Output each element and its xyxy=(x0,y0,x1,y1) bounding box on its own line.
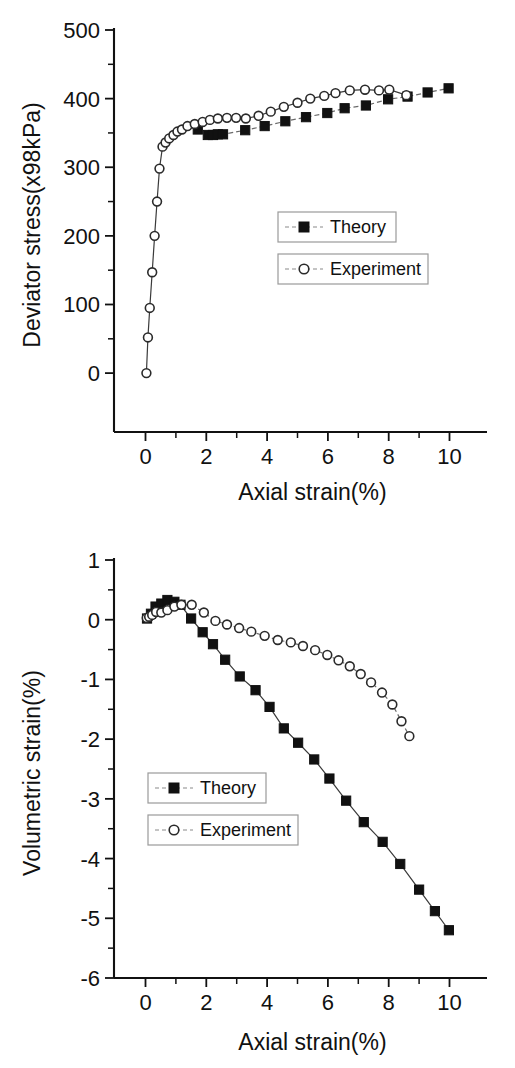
series-line-theory xyxy=(147,600,449,930)
data-point xyxy=(345,662,354,671)
y-tick-label: 200 xyxy=(63,224,100,249)
data-point xyxy=(340,104,349,113)
legend-item-theory[interactable]: Theory xyxy=(148,773,266,803)
legend-label: Experiment xyxy=(330,259,421,279)
data-point xyxy=(273,636,282,645)
data-point xyxy=(187,600,196,609)
legend-label: Theory xyxy=(200,778,256,798)
data-point xyxy=(430,907,439,916)
data-point xyxy=(444,84,453,93)
data-point xyxy=(260,631,269,640)
data-point xyxy=(423,88,432,97)
data-point xyxy=(325,774,334,783)
data-point xyxy=(311,646,320,655)
x-tick-label: 2 xyxy=(200,990,212,1015)
y-tick-label: 0 xyxy=(88,608,100,633)
data-point xyxy=(251,686,260,695)
legend-marker-filled-square-icon xyxy=(169,783,179,793)
legend-label: Theory xyxy=(330,217,386,237)
data-point xyxy=(367,678,376,687)
axes-group: -6-5-4-3-2-1010246810 xyxy=(80,548,487,1015)
legend-label: Experiment xyxy=(200,820,291,840)
data-point xyxy=(396,859,405,868)
data-point xyxy=(155,164,164,173)
data-point xyxy=(361,101,370,110)
y-tick-label: -3 xyxy=(80,787,100,812)
legend-marker-open-circle-icon xyxy=(169,825,179,835)
data-point xyxy=(293,98,302,107)
y-axis-title: Volumetric strain(%) xyxy=(19,670,45,876)
data-point xyxy=(279,724,288,733)
y-tick-label: 100 xyxy=(63,292,100,317)
data-point xyxy=(402,91,411,100)
data-point xyxy=(247,627,256,636)
legend-item-experiment[interactable]: Experiment xyxy=(148,815,298,845)
data-point xyxy=(359,818,368,827)
data-point xyxy=(150,231,159,240)
x-tick-label: 0 xyxy=(139,990,151,1015)
data-point xyxy=(266,107,275,116)
legend: TheoryExperiment xyxy=(278,212,428,284)
data-point xyxy=(235,672,244,681)
data-point xyxy=(153,197,162,206)
data-point xyxy=(331,89,340,98)
data-point xyxy=(294,738,303,747)
data-point xyxy=(208,640,217,649)
data-point xyxy=(241,114,250,123)
data-point xyxy=(286,638,295,647)
data-point xyxy=(361,85,370,94)
legend-item-theory[interactable]: Theory xyxy=(278,212,396,242)
data-point xyxy=(142,369,151,378)
data-point xyxy=(405,732,414,741)
volumetric-strain-plot: -6-5-4-3-2-1010246810Axial strain(%)Volu… xyxy=(0,515,515,1068)
legend-marker-open-circle-icon xyxy=(299,264,309,274)
x-tick-label: 8 xyxy=(383,444,395,469)
data-point xyxy=(187,614,196,623)
data-point xyxy=(299,642,308,651)
legend: TheoryExperiment xyxy=(148,773,298,845)
data-point xyxy=(232,113,241,122)
series-line-experiment xyxy=(147,605,410,736)
data-point xyxy=(198,628,207,637)
y-tick-label: -2 xyxy=(80,727,100,752)
x-tick-label: 10 xyxy=(437,990,461,1015)
data-point xyxy=(378,837,387,846)
y-tick-label: -6 xyxy=(80,966,100,991)
data-point xyxy=(301,113,310,122)
data-point xyxy=(213,114,222,123)
y-tick-label: 300 xyxy=(63,155,100,180)
y-tick-label: 500 xyxy=(63,18,100,43)
data-point xyxy=(375,86,384,95)
data-point xyxy=(218,130,227,139)
data-point xyxy=(223,620,232,629)
data-point xyxy=(323,108,332,117)
data-point xyxy=(320,91,329,100)
legend-marker-filled-square-icon xyxy=(299,222,309,232)
data-point xyxy=(383,95,392,104)
volumetric-strain-figure: -6-5-4-3-2-1010246810Axial strain(%)Volu… xyxy=(0,515,515,1068)
x-tick-label: 4 xyxy=(261,990,273,1015)
y-tick-label: 1 xyxy=(88,548,100,573)
data-point xyxy=(334,656,343,665)
x-tick-label: 10 xyxy=(437,444,461,469)
data-point xyxy=(265,702,274,711)
y-tick-label: 0 xyxy=(88,361,100,386)
data-point xyxy=(281,117,290,126)
y-tick-label: 400 xyxy=(63,87,100,112)
data-point xyxy=(221,655,230,664)
deviator-stress-figure: 01002003004005000246810Axial strain(%)De… xyxy=(0,0,515,515)
data-point xyxy=(235,624,244,633)
data-point xyxy=(148,268,157,277)
legend-item-experiment[interactable]: Experiment xyxy=(278,254,428,284)
data-point xyxy=(415,885,424,894)
data-point xyxy=(306,94,315,103)
x-axis-title: Axial strain(%) xyxy=(238,479,386,505)
x-tick-label: 8 xyxy=(383,990,395,1015)
deviator-stress-plot: 01002003004005000246810Axial strain(%)De… xyxy=(0,0,515,515)
x-tick-label: 4 xyxy=(261,444,273,469)
data-point xyxy=(356,670,365,679)
data-point xyxy=(342,796,351,805)
data-point xyxy=(177,600,186,609)
data-point xyxy=(211,617,220,626)
x-tick-label: 0 xyxy=(139,444,151,469)
